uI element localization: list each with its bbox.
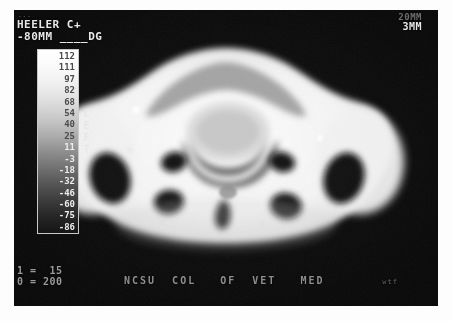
ramp-tick: 97 bbox=[38, 74, 75, 84]
ramp-tick: 112 bbox=[38, 51, 75, 61]
slice-thickness-label: 3MM bbox=[402, 21, 422, 32]
institution-label: NCSU COL OF VET MED bbox=[124, 275, 325, 286]
ct-image-frame: ... HEELER C+ -80MM ____DG 20MM 3MM 112 … bbox=[14, 10, 438, 306]
window-level-line-2: 0 = 200 bbox=[17, 276, 63, 287]
grayscale-colorbar: 112 111 97 82 68 54 40 25 11 -3 -18 -32 … bbox=[37, 49, 79, 234]
ramp-tick: 68 bbox=[38, 97, 75, 107]
grayscale-tick-labels: 112 111 97 82 68 54 40 25 11 -3 -18 -32 … bbox=[38, 50, 78, 233]
faint-top-annotation: ... bbox=[18, 11, 32, 18]
ramp-tick: 11 bbox=[38, 142, 75, 152]
ramp-tick: 111 bbox=[38, 62, 75, 72]
ramp-tick: -18 bbox=[38, 165, 75, 175]
ramp-tick: -86 bbox=[38, 222, 75, 232]
ramp-tick: 40 bbox=[38, 119, 75, 129]
ramp-tick: -75 bbox=[38, 210, 75, 220]
ramp-tick: -3 bbox=[38, 154, 75, 164]
bottom-right-annotation: wtf bbox=[382, 278, 398, 286]
ramp-tick: 25 bbox=[38, 131, 75, 141]
ct-screenshot: ... HEELER C+ -80MM ____DG 20MM 3MM 112 … bbox=[0, 0, 453, 321]
slice-position-label: -80MM ____DG bbox=[17, 30, 102, 43]
ramp-tick: 82 bbox=[38, 85, 75, 95]
ramp-tick: 54 bbox=[38, 108, 75, 118]
window-level-line-1: 1 = 15 bbox=[17, 265, 63, 276]
orientation-marker-left: LEFT bbox=[82, 108, 91, 156]
ramp-tick: -60 bbox=[38, 199, 75, 209]
ramp-tick: -46 bbox=[38, 188, 75, 198]
ramp-tick: -32 bbox=[38, 176, 75, 186]
